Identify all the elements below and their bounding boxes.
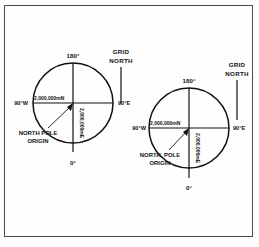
right-east-degree-label: 90°E (233, 125, 245, 131)
left-top-degree-label: 180° (67, 52, 80, 59)
left-west-degree-label: 90°W (14, 100, 28, 106)
right-top-degree-label: 180° (183, 77, 196, 84)
left-grid-north-label-line1: GRID (113, 48, 130, 55)
right-easting-label: 2,000,000mE (195, 133, 201, 164)
left-origin-leader-line (48, 106, 71, 128)
right-origin-label-line1: NORTH, POLE (140, 152, 180, 158)
left-origin-arrowhead (67, 103, 73, 111)
left-grid-north-label-line2: NORTH (109, 57, 133, 64)
left-easting-label: 2,000,000mE (79, 108, 85, 139)
right-bottom-degree-label: 0° (186, 184, 192, 191)
diagram-canvas: 180° 0° 90°W 90°E 2,000,000mN 2,000,000m… (0, 0, 259, 247)
left-origin-label-line2: ORIGIN (28, 138, 49, 144)
left-east-degree-label: 90°E (118, 100, 130, 106)
left-bottom-degree-label: 0° (70, 159, 76, 166)
right-northing-label: 2,000,000mN (150, 120, 181, 126)
right-grid-north-label-line2: NORTH (225, 70, 249, 77)
right-west-degree-label: 90°W (132, 125, 146, 131)
right-origin-label-line2: ORIGIN (150, 160, 171, 166)
left-diagram-group: 180° 0° 90°W 90°E 2,000,000mN 2,000,000m… (14, 48, 133, 166)
left-northing-label: 2,000,000mN (34, 95, 65, 101)
right-origin-leader-line (169, 131, 187, 150)
right-diagram-group: 180° 0° 90°W 90°E 2,000,000mN 2,000,000m… (132, 61, 249, 191)
right-grid-north-label-line1: GRID (229, 61, 246, 68)
figure-root: 180° 0° 90°W 90°E 2,000,000mN 2,000,000m… (0, 0, 259, 247)
left-origin-label-line1: NORTH POLE (19, 130, 58, 136)
